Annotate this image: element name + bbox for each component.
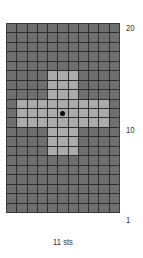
chart-cell — [28, 43, 37, 51]
row-label-20: 20 — [126, 23, 135, 33]
chart-cell — [7, 33, 16, 41]
chart-cell — [7, 90, 16, 98]
chart-cell — [69, 52, 78, 60]
chart-cell — [89, 24, 98, 32]
chart-cell — [58, 90, 67, 98]
chart-cell — [17, 71, 26, 79]
chart-cell — [48, 43, 57, 51]
chart-cell — [58, 147, 67, 155]
center-dot-icon — [60, 111, 65, 116]
chart-cell — [89, 175, 98, 183]
chart-cell — [38, 137, 47, 145]
chart-cell — [99, 71, 108, 79]
chart-cell — [99, 118, 108, 126]
chart-cell — [7, 24, 16, 32]
chart-cell — [58, 166, 67, 174]
chart-cell — [7, 62, 16, 70]
chart-cell — [110, 156, 119, 164]
chart-cell — [28, 100, 37, 108]
chart-cell — [7, 166, 16, 174]
chart-cell — [89, 109, 98, 117]
chart-cell — [7, 100, 16, 108]
chart-cell — [48, 81, 57, 89]
chart-cell — [7, 147, 16, 155]
chart-cell — [79, 43, 88, 51]
chart-cell — [17, 128, 26, 136]
chart-cell — [7, 43, 16, 51]
chart-cell — [7, 204, 16, 212]
chart-cell — [69, 43, 78, 51]
chart-cell — [58, 33, 67, 41]
chart-cell — [99, 33, 108, 41]
chart-cell — [89, 156, 98, 164]
chart-cell — [7, 118, 16, 126]
chart-cell — [7, 175, 16, 183]
chart-cell — [28, 81, 37, 89]
chart-cell — [79, 52, 88, 60]
chart-cell — [38, 81, 47, 89]
chart-cell — [38, 90, 47, 98]
chart-cell — [7, 194, 16, 202]
chart-cell — [89, 52, 98, 60]
chart-cell — [58, 71, 67, 79]
chart-cell — [89, 100, 98, 108]
chart-cell — [99, 81, 108, 89]
chart-cell — [38, 109, 47, 117]
chart-cell — [48, 62, 57, 70]
chart-cell — [79, 147, 88, 155]
chart-cell — [69, 166, 78, 174]
chart-cell — [38, 43, 47, 51]
chart-cell — [79, 90, 88, 98]
chart-cell — [17, 90, 26, 98]
chart-cell — [28, 156, 37, 164]
chart-cell — [48, 33, 57, 41]
chart-cell — [110, 175, 119, 183]
chart-cell — [79, 100, 88, 108]
chart-cell — [110, 118, 119, 126]
chart-cell — [17, 175, 26, 183]
chart-cell — [110, 147, 119, 155]
chart-cell — [69, 147, 78, 155]
chart-cell — [99, 147, 108, 155]
chart-cell — [69, 62, 78, 70]
chart-cell — [38, 62, 47, 70]
chart-cell — [89, 137, 98, 145]
chart-cell — [110, 166, 119, 174]
chart-cell — [38, 118, 47, 126]
chart-cell — [38, 166, 47, 174]
chart-cell — [28, 175, 37, 183]
chart-cell — [99, 175, 108, 183]
chart-cell — [7, 128, 16, 136]
chart-cell — [17, 118, 26, 126]
chart-cell — [48, 109, 57, 117]
chart-cell — [7, 137, 16, 145]
chart-cell — [110, 62, 119, 70]
chart-cell — [48, 71, 57, 79]
chart-cell — [38, 33, 47, 41]
chart-cell — [79, 24, 88, 32]
chart-cell — [89, 166, 98, 174]
chart-cell — [28, 147, 37, 155]
chart-cell — [48, 185, 57, 193]
chart-cell — [28, 109, 37, 117]
chart-cell — [79, 175, 88, 183]
chart-cell — [28, 90, 37, 98]
chart-cell — [58, 156, 67, 164]
chart-cell — [69, 128, 78, 136]
chart-cell — [7, 109, 16, 117]
chart-cell — [38, 128, 47, 136]
chart-cell — [89, 128, 98, 136]
chart-cell — [17, 194, 26, 202]
chart-cell — [58, 43, 67, 51]
chart-cell — [110, 100, 119, 108]
chart-cell — [38, 204, 47, 212]
chart-cell — [17, 204, 26, 212]
chart-cell — [110, 43, 119, 51]
chart-cell — [99, 137, 108, 145]
chart-cell — [48, 166, 57, 174]
chart-cell — [38, 147, 47, 155]
chart-cell — [79, 81, 88, 89]
chart-cell — [38, 24, 47, 32]
chart-cell — [28, 166, 37, 174]
chart-cell — [38, 156, 47, 164]
